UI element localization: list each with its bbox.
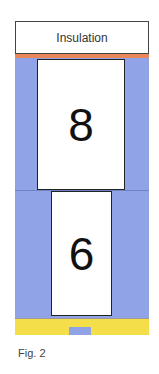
insulation-label: Insulation bbox=[56, 31, 107, 45]
orange-layer-strip bbox=[15, 54, 149, 58]
figure-caption: Fig. 2 bbox=[18, 347, 46, 359]
lower-block: 6 bbox=[51, 191, 112, 316]
bottom-tab bbox=[69, 327, 91, 335]
insulation-layer: Insulation bbox=[15, 21, 149, 54]
lower-block-label: 6 bbox=[69, 227, 95, 281]
upper-block: 8 bbox=[37, 59, 125, 190]
upper-block-label: 8 bbox=[68, 98, 94, 152]
